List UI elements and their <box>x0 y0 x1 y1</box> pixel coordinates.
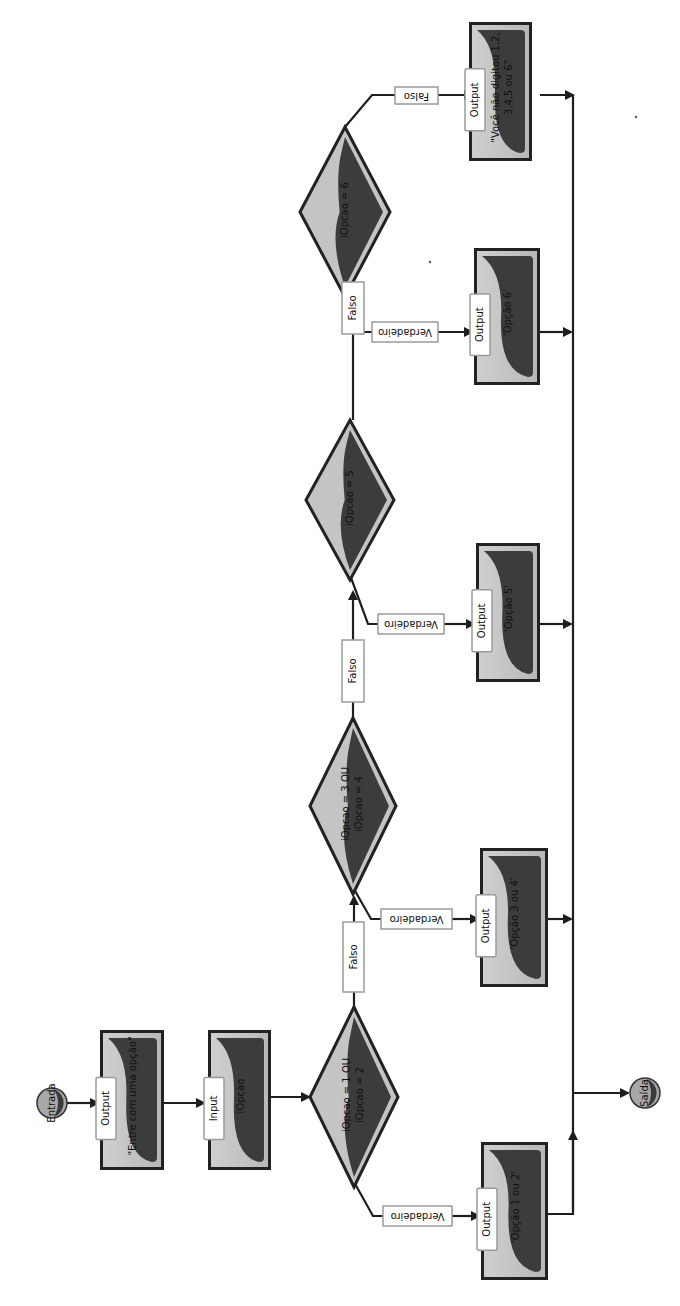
decision-2-true-label: Verdadeiro <box>381 909 452 929</box>
flowchart-canvas: EntradaSaídaOutput"Entre com uma opção"I… <box>0 0 680 1306</box>
decision-1[interactable]: iOpcao = 1 OUiOpcao = 2 <box>310 1007 398 1187</box>
output-oelse-text-line1: "Você não digitou 1,2, <box>490 32 501 142</box>
edge-d4-false-a <box>345 95 395 127</box>
decision-4-true-label-text: Verdadeiro <box>378 327 432 338</box>
decision-1-true-label: Verdadeiro <box>383 1206 452 1226</box>
decision-3-true-label: Verdadeiro <box>378 614 444 634</box>
output-o5-kind-label: Output <box>476 603 487 638</box>
decision-3-false-label: Falso <box>342 282 364 334</box>
output-o6-kind-label: Output <box>474 307 485 342</box>
decision-3-condition: iOpcao = 5 <box>344 470 355 526</box>
edge-d2-true-a <box>354 889 381 919</box>
output-o12[interactable]: Output'Opção 1 ou 2' <box>477 1142 548 1280</box>
edge-d3-true-a <box>350 575 378 624</box>
decision-2-condition-line1: iOpcao = 3 OU <box>340 767 351 841</box>
decision-2-condition-line2: iOpcao = 4 <box>353 776 364 832</box>
end-terminator[interactable]: Saída <box>630 1078 660 1108</box>
end-terminator-label: Saída <box>639 1079 650 1107</box>
input-step-iopcao[interactable]: InputiOpcao <box>204 1030 271 1170</box>
output-o12-text: 'Opção 1 ou 2' <box>510 1171 521 1243</box>
edge-o12-to-collector <box>547 1132 573 1214</box>
edge-d1-true-a <box>354 1182 383 1216</box>
output-oelse[interactable]: Output"Você não digitou 1,2,3,4,5 ou 6" <box>465 22 532 161</box>
decision-1-false-label: Falso <box>343 922 364 992</box>
output-o6[interactable]: Output'Opção 6' <box>470 248 540 385</box>
decision-4-true-label: Verdadeiro <box>372 322 438 342</box>
decision-2-true-label-text: Verdadeiro <box>390 914 444 925</box>
decision-2-false-label: Falso <box>342 640 364 702</box>
input-step-iopcao-kind-label: Input <box>208 1095 219 1121</box>
decision-4[interactable]: iOpcao = 6 <box>300 127 390 297</box>
start-terminator-label: Entrada <box>46 1083 57 1122</box>
scan-speck <box>429 261 431 263</box>
decision-3-false-label-text: Falso <box>347 295 358 320</box>
output-o12-kind-label: Output <box>481 1202 492 1237</box>
start-terminator[interactable]: Entrada <box>37 1083 67 1122</box>
output-o34[interactable]: Output'Opção 3 ou 4' <box>476 848 548 987</box>
output-step-prompt-kind-label: Output <box>100 1091 111 1126</box>
decision-2[interactable]: iOpcao = 3 OUiOpcao = 4 <box>310 718 396 894</box>
decision-4-false-label: Falso <box>395 87 438 104</box>
output-o5[interactable]: Output'Opção 5' <box>472 543 540 682</box>
scan-speck <box>635 116 637 118</box>
decision-1-condition-line1: iOpcao = 1 OU <box>341 1058 352 1132</box>
output-o34-text: 'Opção 3 ou 4' <box>509 877 520 949</box>
decision-2-false-label-text: Falso <box>347 658 358 683</box>
decision-1-true-label-text: Verdadeiro <box>391 1211 445 1222</box>
output-oelse-text-line2: 3,4,5 ou 6" <box>503 60 514 115</box>
decision-3[interactable]: iOpcao = 5 <box>306 420 394 580</box>
decision-4-condition: iOpcao = 6 <box>339 182 350 238</box>
output-step-prompt[interactable]: Output"Entre com uma opção" <box>96 1030 164 1170</box>
decision-1-false-label-text: Falso <box>348 944 359 969</box>
output-o34-kind-label: Output <box>480 908 491 943</box>
decision-1-condition-line2: iOpcao = 2 <box>354 1067 365 1123</box>
output-o6-text: 'Opção 6' <box>502 289 513 336</box>
output-step-prompt-text: "Entre com uma opção" <box>127 1036 138 1155</box>
decision-4-false-label-text: Falso <box>404 91 429 102</box>
decision-3-true-label-text: Verdadeiro <box>384 619 438 630</box>
output-oelse-kind-label: Output <box>469 82 480 117</box>
input-step-iopcao-text: iOpcao <box>235 1079 246 1114</box>
output-o5-text: 'Opção 5' <box>503 585 514 632</box>
